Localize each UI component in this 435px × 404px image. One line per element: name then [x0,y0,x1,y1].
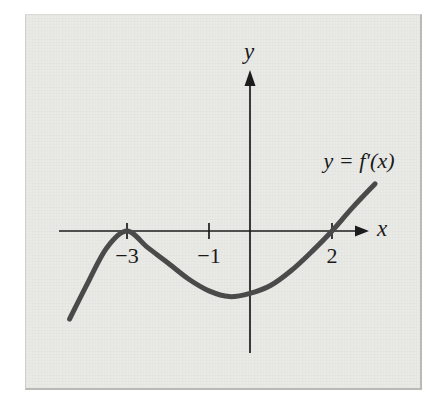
x-axis-arrow-icon [355,226,369,237]
figure-panel: −3−12 y x y = f′(x) [25,14,422,390]
y-axis-arrow-icon [245,70,256,86]
x-tick-label: −3 [115,243,138,268]
curve-label: y = f′(x) [322,148,395,173]
x-axis-label: x [376,216,388,241]
x-tick-label: −1 [197,243,220,268]
y-axis-label: y [242,39,255,64]
x-tick-label: 2 [327,243,338,268]
figure: −3−12 y x y = f′(x) [0,0,435,404]
graph-canvas: −3−12 y x y = f′(x) [26,15,419,388]
